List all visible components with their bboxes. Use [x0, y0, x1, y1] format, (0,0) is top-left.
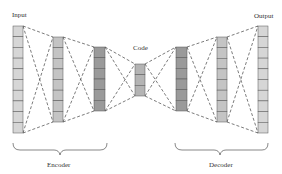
neuron-cell	[135, 85, 145, 96]
neuron-cell	[176, 58, 187, 69]
decoder-brace	[175, 143, 268, 155]
layer-encoder-hidden-2	[94, 47, 105, 111]
layer-decoder-hidden-1	[176, 47, 187, 111]
neuron-cell	[53, 58, 63, 69]
neuron-cell	[94, 100, 105, 111]
connection-line	[145, 64, 176, 111]
neuron-cell	[258, 26, 268, 37]
neuron-cell	[176, 79, 187, 90]
connection-line	[105, 47, 135, 64]
neuron-cell	[53, 101, 63, 112]
input-label: Input	[12, 11, 27, 19]
neuron-cell	[258, 90, 268, 101]
neuron-cell	[217, 90, 227, 101]
neuron-cell	[258, 112, 268, 123]
neuron-cell	[217, 69, 227, 80]
neuron-cell	[176, 90, 187, 101]
neuron-cell	[176, 68, 187, 79]
code-label: Code	[133, 44, 148, 52]
neuron-cell	[13, 26, 23, 37]
encoder-label: Encoder	[47, 161, 71, 169]
neuron-cell	[217, 37, 227, 48]
neuron-cell	[258, 47, 268, 58]
neuron-cell	[94, 58, 105, 69]
neuron-cell	[13, 112, 23, 123]
output-label: Output	[254, 12, 274, 20]
connection-line	[105, 64, 135, 111]
neuron-cell	[135, 64, 145, 75]
decoder-label: Decoder	[209, 161, 233, 169]
neuron-cell	[53, 69, 63, 80]
connection-line	[227, 37, 258, 133]
neuron-cell	[53, 37, 63, 48]
connection-line	[63, 47, 94, 122]
layer-input	[13, 26, 23, 133]
autoencoder-diagram: Input Code Output Encoder Decoder	[0, 0, 282, 174]
neuron-cell	[217, 48, 227, 59]
layer-decoder-hidden-2	[217, 37, 227, 122]
neuron-cell	[135, 75, 145, 86]
connection-line	[187, 37, 217, 111]
neuron-cell	[13, 58, 23, 69]
neuron-cell	[258, 37, 268, 48]
connection-line	[23, 37, 53, 133]
neuron-cell	[258, 69, 268, 80]
neuron-cell	[258, 101, 268, 112]
connection-line	[145, 47, 176, 64]
connection-line	[227, 26, 258, 122]
neuron-cell	[53, 48, 63, 59]
neuron-cell	[217, 80, 227, 91]
neuron-cell	[217, 101, 227, 112]
encoder-brace	[13, 143, 107, 155]
neuron-cell	[94, 79, 105, 90]
neuron-cell	[217, 111, 227, 122]
neuron-cell	[258, 122, 268, 133]
neuron-cell	[13, 101, 23, 112]
neuron-cell	[94, 47, 105, 58]
neuron-cell	[13, 37, 23, 48]
neuron-cell	[53, 111, 63, 122]
neuron-cell	[176, 100, 187, 111]
neuron-cell	[94, 90, 105, 101]
connection-line	[63, 37, 94, 111]
neuron-cell	[217, 58, 227, 69]
neuron-cell	[53, 80, 63, 91]
neuron-cell	[13, 47, 23, 58]
connection-line	[145, 47, 176, 96]
layer-output	[258, 26, 268, 133]
neuron-cell	[13, 69, 23, 80]
connection-line	[63, 37, 94, 47]
layer-encoder-hidden-1	[53, 37, 63, 122]
connection-line	[63, 111, 94, 122]
layer-code	[135, 64, 145, 96]
connection-line	[227, 122, 258, 133]
neuron-cell	[258, 80, 268, 91]
neuron-cell	[53, 90, 63, 101]
neuron-cell	[13, 90, 23, 101]
connection-line	[187, 37, 217, 47]
connection-line	[105, 96, 135, 111]
connection-line	[187, 111, 217, 122]
neuron-cell	[13, 122, 23, 133]
connection-line	[23, 26, 53, 37]
connection-line	[23, 26, 53, 122]
connection-line	[187, 47, 217, 122]
connection-line	[23, 122, 53, 133]
neuron-cell	[94, 68, 105, 79]
connection-line	[227, 26, 258, 37]
neuron-cell	[176, 47, 187, 58]
neuron-cell	[258, 58, 268, 69]
neuron-cell	[13, 80, 23, 91]
